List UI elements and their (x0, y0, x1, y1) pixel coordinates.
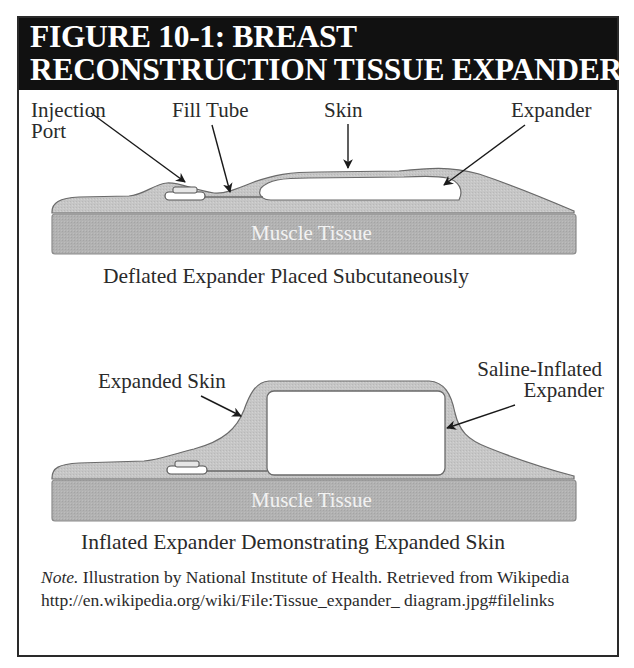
muscle-tissue-label: Muscle Tissue (251, 222, 372, 244)
injection-port-cap (173, 187, 197, 193)
figure-frame: FIGURE 10-1: BREAST RECONSTRUCTION TISSU… (17, 16, 619, 657)
note-text: Illustration by National Institute of He… (41, 567, 569, 610)
deflated-expander (260, 176, 461, 200)
deflated-caption: Deflated Expander Placed Subcutaneously (103, 265, 469, 287)
muscle-tissue-label-2: Muscle Tissue (251, 489, 372, 511)
label-saline-line1: Saline-Inflated (472, 359, 602, 380)
injection-port-cap-2 (175, 461, 199, 467)
label-expander: Expander (511, 100, 591, 121)
label-saline-line2: Expander (474, 380, 604, 401)
note-prefix: Note. (41, 567, 78, 587)
source-note: Note. Illustration by National Institute… (41, 566, 601, 612)
label-injection-port-line1: Injection (31, 100, 106, 121)
fill-tube-arrow (212, 125, 230, 192)
label-saline-inflated-expander: Saline-Inflated Expander (474, 359, 604, 401)
label-skin: Skin (324, 100, 363, 121)
expanded-skin-arrow (201, 396, 241, 416)
inflated-expander (267, 391, 445, 475)
label-injection-port-line2: Port (31, 121, 106, 142)
label-fill-tube: Fill Tube (172, 100, 248, 121)
saline-expander-arrow (447, 405, 515, 428)
inflated-caption: Inflated Expander Demonstrating Expanded… (81, 531, 505, 553)
label-injection-port: Injection Port (31, 100, 106, 142)
label-expanded-skin: Expanded Skin (98, 371, 226, 392)
